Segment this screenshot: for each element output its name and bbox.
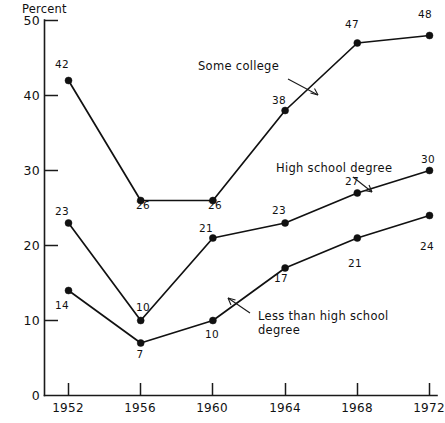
data-point-high-school-1968 <box>354 190 361 197</box>
data-point-some-college-1972 <box>426 32 433 39</box>
data-point-less-than-high-school-1972 <box>426 212 433 219</box>
annotation-label-less-hs-line1: Less than high school <box>258 309 389 323</box>
point-label-high-school-1960: 21 <box>199 222 213 234</box>
annotation-leader-less-hs <box>228 298 250 313</box>
point-label-high-school-1972: 30 <box>421 153 435 165</box>
data-point-high-school-1964 <box>282 220 289 227</box>
series-points-some-college <box>65 32 433 204</box>
point-label-some-college-1972: 48 <box>418 8 432 20</box>
data-point-less-than-high-school-1960 <box>209 317 216 324</box>
axes-group <box>45 20 438 396</box>
data-point-less-than-high-school-1968 <box>354 235 361 242</box>
series-high-school-degree: 23 10 21 23 27 30 <box>55 153 435 324</box>
data-point-some-college-1952 <box>65 77 72 84</box>
data-point-some-college-1964 <box>282 107 289 114</box>
series-points-high-school <box>65 167 433 324</box>
point-label-less-hs-1972: 24 <box>420 240 434 252</box>
series-less-than-high-school: 14 7 10 17 21 24 <box>55 212 434 360</box>
data-point-high-school-1960 <box>209 235 216 242</box>
y-tick-label-40: 40 <box>23 88 40 103</box>
annotation-leader-some-college <box>288 79 318 95</box>
series-line-less-than-high-school <box>69 216 430 344</box>
point-label-less-hs-1968: 21 <box>348 257 362 269</box>
data-point-less-than-high-school-1956 <box>137 340 144 347</box>
y-tick-label-10: 10 <box>23 313 40 328</box>
annotation-some-college: Some college <box>198 59 318 95</box>
series-line-high-school <box>69 171 430 321</box>
point-label-high-school-1968: 27 <box>345 175 359 187</box>
line-chart-svg: Percent 50 40 30 20 10 0 1952 1956 1960 … <box>0 0 445 423</box>
data-point-high-school-1956 <box>137 317 144 324</box>
data-point-high-school-1972 <box>426 167 433 174</box>
annotation-label-some-college: Some college <box>198 59 279 73</box>
point-label-less-hs-1956: 7 <box>137 348 144 360</box>
annotation-label-less-hs-line2: degree <box>258 323 300 337</box>
annotation-label-high-school: High school degree <box>276 161 392 175</box>
point-label-high-school-1952: 23 <box>55 205 69 217</box>
point-label-some-college-1952: 42 <box>55 58 69 70</box>
chart-container: Percent 50 40 30 20 10 0 1952 1956 1960 … <box>0 0 445 423</box>
point-label-high-school-1964: 23 <box>272 204 286 216</box>
point-label-some-college-1964: 38 <box>272 94 286 106</box>
point-label-some-college-1956: 26 <box>136 199 150 211</box>
y-tick-label-0: 0 <box>32 388 40 403</box>
data-point-less-than-high-school-1964 <box>282 265 289 272</box>
data-point-less-than-high-school-1952 <box>65 287 72 294</box>
data-point-high-school-1952 <box>65 220 72 227</box>
x-tick-label-1952: 1952 <box>52 401 84 415</box>
y-tick-label-50: 50 <box>23 13 40 28</box>
annotation-less-than-high-school: Less than high school degree <box>228 298 389 337</box>
point-label-less-hs-1952: 14 <box>55 299 69 311</box>
y-tick-label-30: 30 <box>23 163 40 178</box>
data-point-some-college-1968 <box>354 40 361 47</box>
y-tick-label-20: 20 <box>23 238 40 253</box>
point-label-some-college-1960: 26 <box>208 199 222 211</box>
point-label-less-hs-1960: 10 <box>205 328 219 340</box>
point-label-some-college-1968: 47 <box>345 18 359 30</box>
series-some-college: 42 26 26 38 47 48 <box>55 8 433 211</box>
point-label-less-hs-1964: 17 <box>274 272 288 284</box>
figure-caption <box>150 412 445 423</box>
point-label-high-school-1956: 10 <box>136 301 150 313</box>
